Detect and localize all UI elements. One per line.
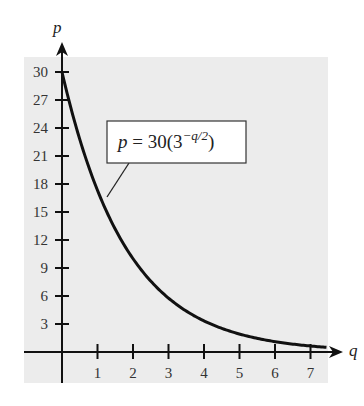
y-tick-label: 3 bbox=[41, 316, 49, 332]
y-tick-label: 27 bbox=[33, 92, 49, 108]
equation-lhs: p bbox=[116, 131, 128, 152]
x-tick-label: 4 bbox=[200, 365, 208, 381]
y-tick-label: 30 bbox=[33, 64, 48, 80]
y-tick-label: 18 bbox=[33, 176, 48, 192]
y-axis-label: p bbox=[52, 18, 62, 37]
y-tick-label: 9 bbox=[41, 260, 49, 276]
equation-exponent: −q/2 bbox=[183, 128, 209, 143]
equation-body: = 30(3 bbox=[128, 131, 183, 153]
x-tick-label: 5 bbox=[236, 365, 244, 381]
y-tick-label: 21 bbox=[33, 148, 48, 164]
y-tick-label: 15 bbox=[33, 204, 48, 220]
x-tick-label: 1 bbox=[94, 365, 102, 381]
x-tick-label: 3 bbox=[165, 365, 173, 381]
x-axis-label: q bbox=[349, 341, 358, 360]
chart: 36912151821242730 1234567 p q p = 30(3−q… bbox=[0, 0, 364, 406]
y-tick-label: 12 bbox=[33, 232, 48, 248]
equation-close: ) bbox=[208, 131, 214, 153]
x-tick-label: 2 bbox=[129, 365, 137, 381]
y-tick-label: 24 bbox=[33, 120, 49, 136]
x-tick-label: 6 bbox=[271, 365, 279, 381]
x-tick-label: 7 bbox=[307, 365, 315, 381]
y-tick-label: 6 bbox=[41, 288, 49, 304]
